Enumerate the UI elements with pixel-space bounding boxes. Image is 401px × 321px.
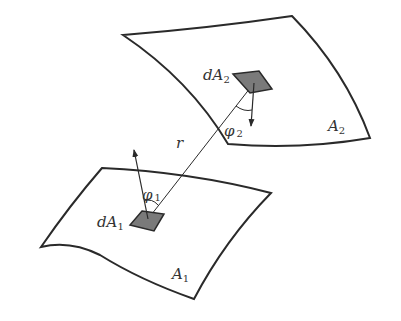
label-r: r (176, 134, 184, 152)
view-factor-diagram: dA2 A2 φ2 r φ1 dA1 A1 (0, 0, 401, 321)
surface-a1 (41, 168, 271, 299)
